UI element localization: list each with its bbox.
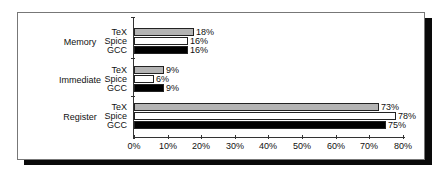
x-axis-tick: [134, 135, 135, 139]
x-tick-label: 0%: [119, 141, 149, 151]
bar-tex: [134, 28, 194, 36]
x-tick-label: 10%: [153, 141, 183, 151]
series-label: GCC: [87, 120, 127, 130]
value-label: 16%: [190, 45, 208, 55]
x-axis: [133, 137, 405, 138]
bar-spice: [134, 37, 188, 45]
x-tick-label: 40%: [253, 141, 283, 151]
x-axis-tick: [369, 135, 370, 139]
series-label: GCC: [87, 45, 127, 55]
x-axis-tick: [201, 135, 202, 139]
x-tick-label: 50%: [287, 141, 317, 151]
y-axis-tick: [131, 96, 135, 97]
bar-gcc: [134, 46, 188, 54]
x-axis-tick: [235, 135, 236, 139]
x-axis-tick: [302, 135, 303, 139]
y-axis-tick: [131, 58, 135, 59]
bar-spice: [134, 112, 396, 120]
series-label: GCC: [87, 83, 127, 93]
bar-gcc: [134, 84, 164, 92]
x-tick-label: 20%: [186, 141, 216, 151]
x-axis-tick: [403, 135, 404, 139]
y-axis: [133, 17, 134, 139]
bar-spice: [134, 75, 154, 83]
x-tick-label: 30%: [220, 141, 250, 151]
x-axis-tick: [336, 135, 337, 139]
value-label: 75%: [388, 120, 406, 130]
x-tick-label: 70%: [354, 141, 384, 151]
x-tick-label: 60%: [321, 141, 351, 151]
x-tick-label: 80%: [388, 141, 418, 151]
value-label: 73%: [381, 102, 399, 112]
x-axis-tick: [168, 135, 169, 139]
bar-gcc: [134, 121, 386, 129]
x-axis-tick: [268, 135, 269, 139]
bar-tex: [134, 66, 164, 74]
y-axis-tick: [131, 17, 135, 18]
bar-tex: [134, 103, 379, 111]
value-label: 9%: [166, 83, 179, 93]
